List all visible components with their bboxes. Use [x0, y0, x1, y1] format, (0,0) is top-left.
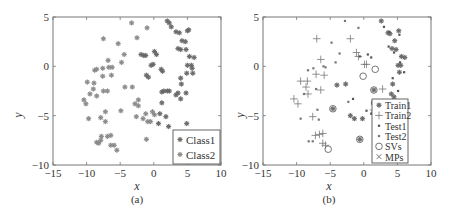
class2-marker — [112, 143, 117, 148]
class2-marker — [106, 58, 111, 63]
svs-marker — [325, 146, 332, 153]
train1-marker — [393, 47, 398, 52]
class2-marker — [85, 80, 90, 85]
class2-marker — [143, 111, 148, 116]
svs-marker — [372, 66, 379, 73]
class2-marker — [122, 84, 127, 89]
test2-marker — [330, 42, 332, 44]
test1-marker — [399, 61, 401, 63]
chart-caption: (b) — [323, 193, 336, 206]
legend-test1-marker — [378, 125, 380, 127]
class2-marker — [96, 141, 101, 146]
x-tick-label: −5 — [324, 167, 336, 179]
train1-marker — [396, 28, 401, 33]
x-tick-label: −10 — [288, 167, 306, 179]
plot-area-a: −15−10−50510−10−505x(a)yClass1Class2 — [0, 0, 228, 217]
class1-marker — [146, 75, 151, 80]
class2-marker — [98, 115, 103, 120]
class1-marker — [160, 69, 165, 74]
scatter-plot-b: −15−10−50510−10−505x(b)yTrain1Train2Test… — [210, 0, 455, 217]
test1-marker — [383, 26, 385, 28]
legend-class1-marker — [177, 137, 182, 142]
class2-marker — [94, 67, 99, 72]
train1-marker — [330, 106, 335, 111]
train1-marker — [334, 82, 339, 87]
test2-marker — [334, 61, 336, 63]
class2-marker — [91, 81, 96, 86]
x-axis-label: x — [325, 179, 332, 193]
test2-marker — [322, 65, 324, 67]
y-tick-label: 0 — [254, 60, 260, 72]
train2-marker — [363, 61, 371, 69]
class2-marker — [134, 35, 139, 40]
class2-marker — [140, 116, 145, 121]
legend-test2-marker — [378, 135, 380, 137]
class2-marker — [110, 65, 115, 70]
test2-marker — [316, 109, 318, 111]
y-tick-label: −5 — [247, 110, 259, 122]
train2-marker — [347, 35, 355, 43]
class2-marker — [136, 97, 141, 102]
class1-marker — [190, 71, 195, 76]
class1-marker — [183, 47, 188, 52]
legend-train1-marker — [376, 103, 381, 108]
class1-marker — [178, 76, 183, 81]
train1-marker — [357, 137, 362, 142]
train1-marker — [343, 81, 348, 86]
train2-marker — [304, 90, 312, 98]
test1-marker — [388, 46, 390, 48]
test1-marker — [403, 71, 405, 73]
test2-marker — [339, 52, 341, 54]
test2-marker — [312, 140, 314, 142]
class2-marker — [144, 137, 149, 142]
x-tick-label: −10 — [78, 167, 96, 179]
train1-marker — [360, 116, 365, 121]
x-tick-label: 0 — [151, 167, 157, 179]
class1-marker — [184, 121, 189, 126]
test2-marker — [324, 66, 326, 68]
y-tick-label: −10 — [242, 159, 260, 171]
class2-marker — [83, 101, 88, 106]
class2-marker — [134, 114, 139, 119]
train2-marker — [319, 130, 327, 138]
chart-caption: (a) — [131, 193, 144, 206]
x-tick-label: 5 — [185, 167, 191, 179]
test1-marker — [370, 56, 372, 58]
train1-marker — [390, 81, 395, 86]
train2-marker — [312, 132, 320, 140]
train2-marker — [290, 95, 298, 103]
scatter-plot-a: −15−10−50510−10−505x(a)yClass1Class2 — [0, 0, 228, 217]
class2-marker — [119, 60, 124, 65]
class2-marker — [87, 91, 92, 96]
train1-marker — [371, 87, 376, 92]
class1-marker — [167, 88, 172, 93]
class1-marker — [179, 81, 184, 86]
svs-marker — [360, 73, 367, 80]
train1-marker — [397, 70, 402, 75]
y-tick-label: −5 — [37, 110, 49, 122]
class2-marker — [109, 73, 114, 78]
train2-marker — [317, 56, 325, 64]
train2-marker — [316, 131, 324, 139]
test2-marker — [344, 20, 346, 22]
test2-marker — [357, 27, 359, 29]
y-axis-label: y — [233, 112, 247, 119]
train2-marker — [313, 35, 321, 43]
train1-marker — [402, 55, 407, 60]
test2-marker — [300, 118, 302, 120]
y-tick-label: 5 — [44, 11, 50, 23]
test1-marker — [392, 77, 394, 79]
test1-marker — [393, 51, 395, 53]
train2-marker — [320, 71, 328, 79]
x-axis-label: x — [133, 179, 140, 193]
y-tick-label: 5 — [254, 11, 260, 23]
legend: Train1Train2Test1Test2SVsMPs — [372, 99, 411, 163]
class2-marker — [116, 41, 121, 46]
class1-marker — [166, 124, 171, 129]
train2-marker — [297, 77, 305, 85]
class2-marker — [91, 86, 96, 91]
train2-marker — [355, 53, 363, 61]
test2-marker — [315, 88, 317, 90]
y-axis-label: y — [11, 112, 25, 119]
train1-marker — [398, 63, 403, 68]
